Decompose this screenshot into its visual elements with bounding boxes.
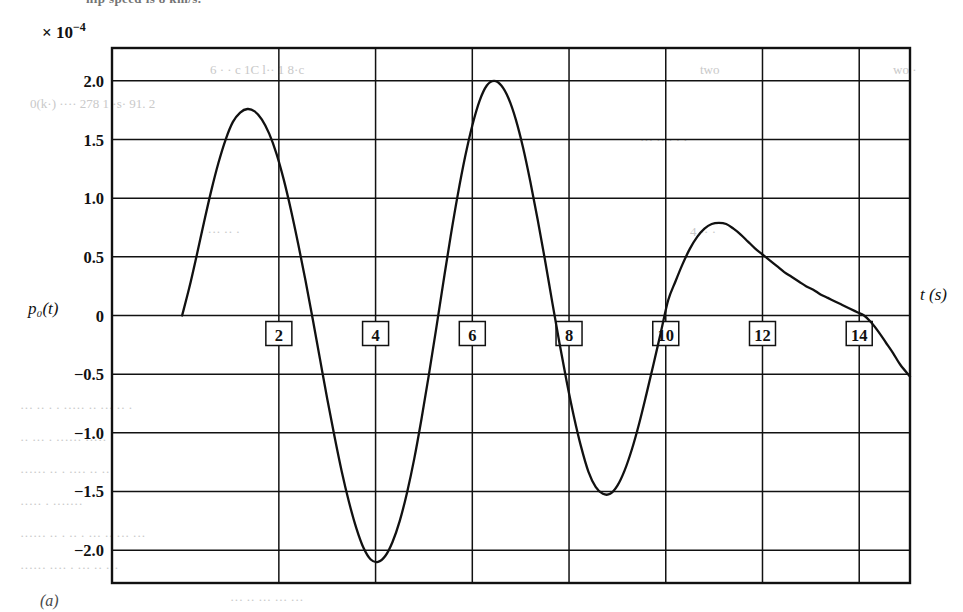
panel-label: (a) — [40, 592, 59, 610]
y-tick-label: 1.5 — [83, 131, 104, 150]
horizontal-gridlines — [112, 81, 910, 550]
x-tick-label: 4 — [371, 326, 379, 345]
y-tick-label: −1.0 — [74, 424, 104, 443]
y-axis-tick-labels: 2.01.51.00.50−0.5−1.0−1.5−2.0 — [74, 72, 104, 560]
y-tick-label: −1.5 — [74, 482, 104, 501]
y-tick-label: −2.0 — [74, 541, 104, 560]
y-tick-label: 2.0 — [83, 72, 104, 91]
x-tick-label: 10 — [658, 326, 675, 345]
y-tick-label: −0.5 — [74, 365, 104, 384]
x-axis-label: t (s) — [920, 285, 947, 304]
x-tick-label: 12 — [754, 326, 771, 345]
y-axis-label: p₀(t) — [27, 299, 59, 318]
line-chart: 2.01.51.00.50−0.5−1.0−1.5−2.0 2468101214… — [0, 0, 963, 612]
y-tick-label: 0 — [96, 307, 104, 326]
figure-panel: hip speed is 8 km/s. 6 · · c 1C l·· 1 8·… — [0, 0, 963, 612]
x-tick-label: 14 — [851, 326, 868, 345]
y-tick-label: 1.0 — [83, 189, 104, 208]
x-tick-label: 8 — [565, 326, 573, 345]
x-tick-label: 6 — [468, 326, 476, 345]
x-tick-label: 2 — [275, 326, 283, 345]
y-tick-label: 0.5 — [83, 248, 104, 267]
y-axis-scale-multiplier: × 10−4 — [42, 20, 86, 42]
